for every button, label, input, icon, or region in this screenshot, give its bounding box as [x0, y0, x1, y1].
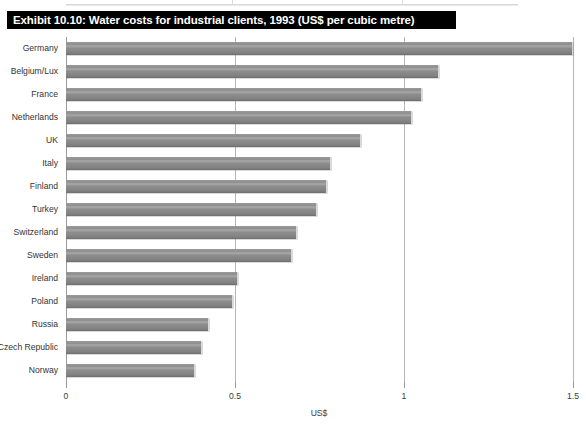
exhibit-title-banner: Exhibit 10.10: Water costs for industria…: [7, 11, 456, 29]
bar-netherlands[interactable]: [66, 111, 412, 124]
bar-belgium-lux[interactable]: [66, 65, 439, 78]
bar-chart: GermanyBelgium/LuxFranceNetherlandsUKIta…: [0, 33, 586, 424]
bar-row[interactable]: [66, 152, 573, 175]
top-tick-stub-right: [402, 0, 403, 5]
category-label-russia: Russia: [0, 320, 58, 329]
bar-row[interactable]: [66, 83, 573, 106]
value-axis-tick-label: 1: [402, 391, 407, 401]
bar-row[interactable]: [66, 313, 573, 336]
value-axis-tick-label: 1.5: [567, 391, 579, 401]
bar-poland[interactable]: [66, 295, 233, 308]
bar-switzerland[interactable]: [66, 226, 297, 239]
category-label-norway: Norway: [0, 366, 58, 375]
category-label-netherlands: Netherlands: [0, 113, 58, 122]
page-top-rule-shadow: [66, 5, 518, 6]
bar-row[interactable]: [66, 267, 573, 290]
bar-italy[interactable]: [66, 157, 331, 170]
bar-turkey[interactable]: [66, 203, 317, 216]
category-label-switzerland: Switzerland: [0, 228, 58, 237]
bar-row[interactable]: [66, 221, 573, 244]
bar-row[interactable]: [66, 37, 573, 60]
tick-mark-1.5: [573, 382, 574, 388]
bar-row[interactable]: [66, 60, 573, 83]
bar-sweden[interactable]: [66, 249, 292, 262]
gridline-1.5: [573, 37, 574, 382]
bar-czech-republic[interactable]: [66, 341, 202, 354]
category-label-poland: Poland: [0, 297, 58, 306]
bar-germany[interactable]: [66, 42, 573, 55]
bar-ireland[interactable]: [66, 272, 238, 285]
bar-row[interactable]: [66, 175, 573, 198]
bar-norway[interactable]: [66, 364, 195, 377]
top-tick-stub-left: [232, 0, 233, 5]
bar-finland[interactable]: [66, 180, 327, 193]
category-axis-labels: GermanyBelgium/LuxFranceNetherlandsUKIta…: [0, 37, 62, 382]
value-axis-tick-label: 0: [64, 391, 69, 401]
category-label-sweden: Sweden: [0, 251, 58, 260]
plot-area: [66, 37, 573, 382]
bar-row[interactable]: [66, 198, 573, 221]
bar-row[interactable]: [66, 359, 573, 382]
category-label-ireland: Ireland: [0, 274, 58, 283]
bar-row[interactable]: [66, 244, 573, 267]
bar-russia[interactable]: [66, 318, 209, 331]
bar-france[interactable]: [66, 88, 422, 101]
bar-row[interactable]: [66, 290, 573, 313]
bar-uk[interactable]: [66, 134, 361, 147]
bar-row[interactable]: [66, 106, 573, 129]
tick-mark-1: [404, 382, 405, 388]
bar-row[interactable]: [66, 336, 573, 359]
category-label-czech-republic: Czech Republic: [0, 343, 58, 352]
tick-mark-0: [66, 382, 67, 388]
value-axis-tick-label: 0.5: [229, 391, 241, 401]
category-label-finland: Finland: [0, 182, 58, 191]
value-axis-title: US$: [311, 408, 328, 418]
category-label-belgium-lux: Belgium/Lux: [0, 67, 58, 76]
bar-row[interactable]: [66, 129, 573, 152]
category-label-italy: Italy: [0, 159, 58, 168]
bar-series: [66, 37, 573, 382]
value-axis: 00.511.5 US$: [66, 382, 573, 424]
page-title: Exhibit 10.10: Water costs for industria…: [7, 14, 415, 26]
category-label-uk: UK: [0, 136, 58, 145]
tick-mark-0.5: [235, 382, 236, 388]
category-label-germany: Germany: [0, 44, 58, 53]
category-label-france: France: [0, 90, 58, 99]
category-label-turkey: Turkey: [0, 205, 58, 214]
